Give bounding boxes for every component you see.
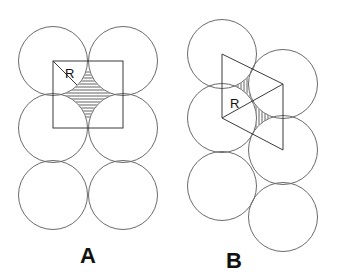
figure-a: R A [19,27,158,269]
circle [249,183,318,252]
figure-b-label: B [226,248,242,273]
figure-b-hatch [238,60,268,170]
figure-b: R B [188,20,318,274]
radius-label: R [65,66,74,81]
circle [19,161,88,230]
radius-label: R [230,96,239,111]
packing-diagram: R A R B [0,0,337,277]
circle [188,152,257,221]
figure-a-label: A [80,243,96,268]
figure-a-hatch [40,72,140,117]
circle [89,161,158,230]
